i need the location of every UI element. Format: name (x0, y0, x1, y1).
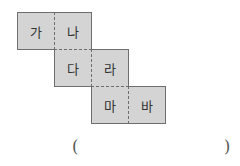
open-paren: ( (72, 137, 78, 156)
face-na: 나 (54, 12, 92, 50)
face-ra: 라 (91, 49, 129, 87)
face-ma: 마 (91, 86, 129, 124)
close-paren: ) (224, 137, 230, 156)
face-ga: 가 (17, 12, 55, 50)
face-ba: 바 (128, 86, 166, 124)
face-da: 다 (54, 49, 92, 87)
